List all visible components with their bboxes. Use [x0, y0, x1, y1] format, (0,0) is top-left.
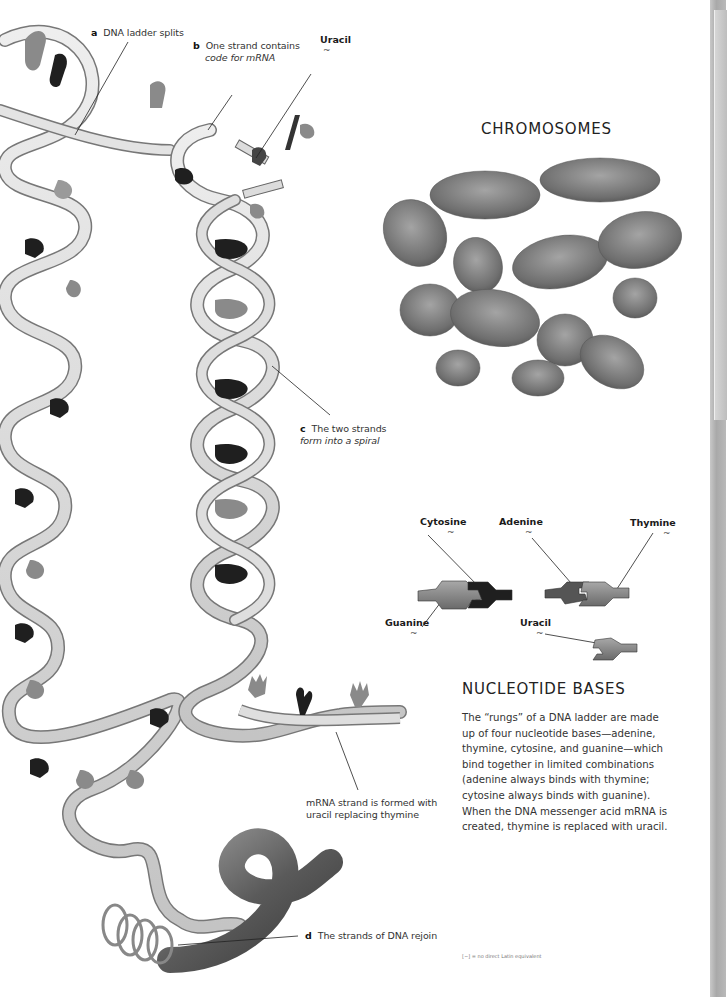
label-c-text: The two strands [312, 423, 387, 434]
label-a: aDNA ladder splits [91, 27, 184, 39]
left-helix [0, 32, 240, 927]
uracil-top-latin: ~ [323, 45, 351, 55]
nucleotide-heading: NUCLEOTIDE BASES [462, 680, 626, 698]
label-mrna: mRNA strand is formed with uracil replac… [306, 797, 437, 821]
thymine-name: Thymine [630, 517, 676, 528]
adenine-name: Adenine [499, 516, 543, 527]
label-c-italic: form into a spiral [300, 435, 380, 446]
body-line: (adenine always binds with thymine; [462, 772, 702, 788]
label-cytosine: Cytosine ~ [420, 516, 466, 537]
label-a-letter: a [91, 27, 97, 38]
label-b-text: One strand contains [206, 40, 300, 51]
body-line: bind together in limited combinations [462, 757, 702, 773]
label-uracil-base: Uracil ~ [520, 617, 551, 638]
label-d-letter: d [305, 930, 312, 941]
uracil-top-name: Uracil [320, 34, 351, 45]
adenine-latin: ~ [525, 527, 543, 537]
label-uracil-top: Uracil ~ [320, 34, 351, 55]
body-line: cytosine always binds with guanine). [462, 788, 702, 804]
label-b: bOne strand contains code for mRNA [193, 40, 300, 64]
cytosine-latin: ~ [447, 527, 466, 537]
label-mrna-line1: mRNA strand is formed with [306, 797, 437, 808]
label-c: cThe two strands form into a spiral [300, 423, 386, 447]
label-d: dThe strands of DNA rejoin [305, 930, 437, 942]
dna-coil-tail [103, 841, 330, 963]
label-guanine: Guanine ~ [385, 617, 429, 638]
body-line: The “rungs” of a DNA ladder are made [462, 710, 702, 726]
guanine-name: Guanine [385, 617, 429, 628]
label-thymine: Thymine ~ [630, 517, 676, 538]
label-a-text: DNA ladder splits [103, 27, 183, 38]
label-b-letter: b [193, 40, 200, 51]
thymine-latin: ~ [663, 528, 676, 538]
label-d-text: The strands of DNA rejoin [318, 930, 437, 941]
page-edge-tab [714, 10, 727, 420]
chromosome-images [370, 158, 686, 400]
uracil-base-name: Uracil [520, 617, 551, 628]
nucleotide-body: The “rungs” of a DNA ladder are made up … [462, 710, 702, 835]
cytosine-name: Cytosine [420, 516, 466, 527]
label-b-italic: code for mRNA [205, 52, 275, 63]
body-line: thymine, cytosine, and guanine—which [462, 741, 702, 757]
body-line: up of four nucleotide bases—adenine, [462, 726, 702, 742]
label-mrna-line2: uracil replacing thymine [306, 809, 419, 820]
label-c-letter: c [300, 423, 306, 434]
body-line: When the DNA messenger acid mRNA is [462, 804, 702, 820]
label-adenine: Adenine ~ [499, 516, 543, 537]
guanine-latin: ~ [410, 628, 429, 638]
footnote: [~] = no direct Latin equivalent [462, 953, 542, 959]
uracil-base-latin: ~ [536, 628, 551, 638]
body-line: created, thymine is replaced with uracil… [462, 819, 702, 835]
chromosomes-heading: CHROMOSOMES [481, 120, 612, 138]
